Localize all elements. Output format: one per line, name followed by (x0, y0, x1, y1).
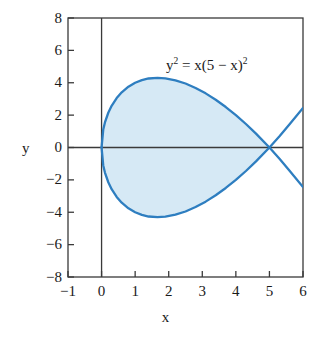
equation-lhs-base: y (166, 57, 174, 73)
y-tick-label: 2 (36, 108, 62, 123)
x-tick-label: 2 (154, 284, 184, 299)
equation-body: = x(5 − x) (178, 57, 242, 73)
y-axis-label: y (22, 140, 30, 157)
y-tick-label: −8 (36, 270, 62, 285)
equation-rhs-exponent: 2 (243, 56, 248, 66)
figure-container: −8−6−4−202468 −10123456 y x y2 = x(5 − x… (0, 0, 331, 337)
x-tick-label: 1 (120, 284, 150, 299)
x-tick-label: 5 (254, 284, 284, 299)
x-tick-label: 0 (87, 284, 117, 299)
y-tick-label: 0 (36, 140, 62, 155)
y-tick-label: −6 (36, 237, 62, 252)
x-axis-ticks (68, 271, 303, 277)
x-axis-label: x (0, 309, 331, 326)
x-tick-label: −1 (53, 284, 83, 299)
y-tick-label: 4 (36, 75, 62, 90)
x-tick-label: 4 (221, 284, 251, 299)
y-tick-label: −4 (36, 205, 62, 220)
x-tick-label: 6 (288, 284, 318, 299)
y-tick-label: −2 (36, 172, 62, 187)
y-axis-ticks (68, 18, 74, 277)
y-tick-label: 6 (36, 43, 62, 58)
x-tick-label: 3 (187, 284, 217, 299)
equation-annotation: y2 = x(5 − x)2 (166, 56, 247, 74)
y-tick-label: 8 (36, 11, 62, 26)
